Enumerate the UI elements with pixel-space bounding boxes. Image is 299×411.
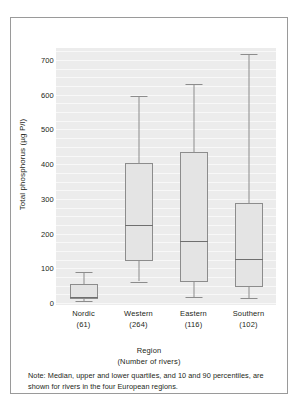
category-count: (116) [166, 319, 221, 330]
category-name: Eastern [166, 308, 221, 319]
y-axis-tick-300: 300 [8, 194, 54, 203]
boxplot-nordic [56, 48, 111, 305]
median-line [125, 225, 153, 226]
x-axis-title-sub: (Number of rivers) [117, 357, 180, 366]
whisker-lower [248, 287, 249, 298]
x-axis-category-southern: Southern(102) [221, 308, 276, 330]
whisker-cap-upper [130, 96, 147, 97]
category-count: (264) [111, 319, 166, 330]
y-axis-tick-100: 100 [8, 264, 54, 273]
box-iqr [235, 203, 263, 287]
x-axis-category-eastern: Eastern(116) [166, 308, 221, 330]
x-axis-category-nordic: Nordic(61) [56, 308, 111, 330]
plot-area [56, 48, 276, 305]
whisker-cap-upper [240, 54, 257, 55]
x-axis-category-western: Western(264) [111, 308, 166, 330]
boxplot-eastern [166, 48, 221, 305]
y-axis-tick-700: 700 [8, 56, 54, 65]
whisker-cap-lower [75, 301, 92, 302]
figure-note: Note: Median, upper and lower quartiles,… [28, 370, 268, 392]
boxplot-southern [221, 48, 276, 305]
whisker-upper [83, 272, 84, 284]
whisker-cap-lower [240, 298, 257, 299]
x-axis-title-main: Region [137, 346, 162, 355]
whisker-upper [138, 96, 139, 163]
whisker-cap-lower [185, 297, 202, 298]
category-name: Southern [221, 308, 276, 319]
y-axis-tick-600: 600 [8, 90, 54, 99]
box-iqr [125, 163, 153, 261]
chart-page: Total phosphorus (µg P/l) 01002003004005… [0, 0, 299, 411]
median-line [70, 297, 98, 298]
whisker-upper [193, 84, 194, 152]
boxplot-western [111, 48, 166, 305]
whisker-upper [248, 54, 249, 203]
whisker-lower [193, 282, 194, 297]
whisker-cap-lower [130, 282, 147, 283]
whisker-lower [138, 261, 139, 281]
y-axis-tick-400: 400 [8, 160, 54, 169]
median-line [235, 259, 263, 260]
y-axis-tick-500: 500 [8, 125, 54, 134]
whisker-cap-upper [185, 84, 202, 85]
x-axis-title: Region (Number of rivers) [10, 345, 288, 367]
x-axis-tick-labels: Nordic(61)Western(264)Eastern(116)Southe… [56, 308, 276, 342]
y-axis-tick-200: 200 [8, 229, 54, 238]
median-line [180, 241, 208, 242]
category-count: (102) [221, 319, 276, 330]
category-name: Nordic [56, 308, 111, 319]
box-iqr [180, 152, 208, 282]
whisker-cap-upper [75, 272, 92, 273]
y-axis-tick-0: 0 [8, 299, 54, 308]
category-name: Western [111, 308, 166, 319]
category-count: (61) [56, 319, 111, 330]
